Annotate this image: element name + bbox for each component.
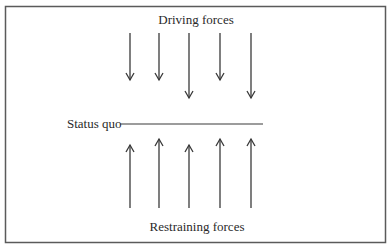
force-field-diagram: Driving forces Status quo Restraining fo…: [0, 0, 389, 248]
driving-force-arrow: [216, 33, 224, 80]
restraining-forces-label: Restraining forces: [150, 219, 245, 234]
restraining-force-arrow: [247, 139, 255, 208]
status-quo-label: Status quo: [67, 116, 122, 131]
restraining-forces-arrows: [126, 139, 255, 208]
driving-force-arrow: [126, 33, 134, 80]
restraining-force-arrow: [155, 139, 163, 208]
driving-forces-label: Driving forces: [158, 12, 233, 27]
restraining-force-arrow: [216, 139, 224, 208]
restraining-force-arrow: [185, 145, 193, 208]
restraining-force-arrow: [126, 145, 134, 208]
driving-force-arrow: [247, 33, 255, 98]
driving-force-arrow: [155, 33, 163, 80]
driving-forces-arrows: [126, 33, 255, 98]
driving-force-arrow: [185, 33, 193, 98]
